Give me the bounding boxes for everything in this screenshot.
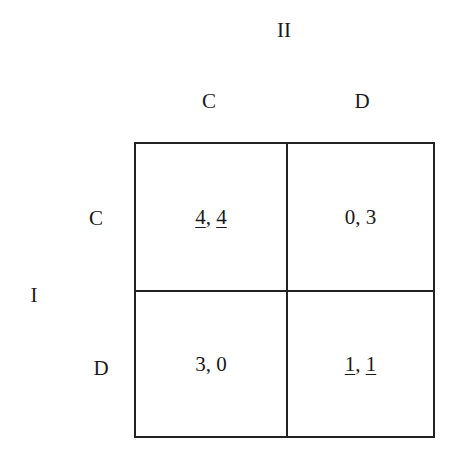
payoff-separator: , [355,205,366,230]
column-strategy-c: C [202,91,216,112]
payoff-separator: , [206,205,217,230]
payoff-cell-cc: 4, 4 [136,144,286,290]
row-player-label: I [31,285,38,306]
payoff-cell-dd: 1, 1 [288,292,433,436]
payoff-player2: 4 [216,205,227,230]
payoff-cell-dc: 3, 0 [136,292,286,436]
payoff-player2: 0 [216,352,227,377]
payoff-cell-cd: 0, 3 [288,144,433,290]
payoff-player1: 4 [195,205,206,230]
payoff-player2: 3 [366,205,377,230]
row-strategy-d: D [93,358,108,379]
row-strategy-c: C [89,208,103,229]
payoff-grid: 4, 4 0, 3 3, 0 1, 1 [134,142,435,438]
payoff-separator: , [206,352,217,377]
column-strategy-d: D [354,91,369,112]
payoff-separator: , [355,352,366,377]
payoff-player1: 1 [345,352,356,377]
payoff-player1: 0 [345,205,356,230]
payoff-player1: 3 [195,352,206,377]
payoff-player2: 1 [366,352,377,377]
column-player-label: II [277,20,291,41]
